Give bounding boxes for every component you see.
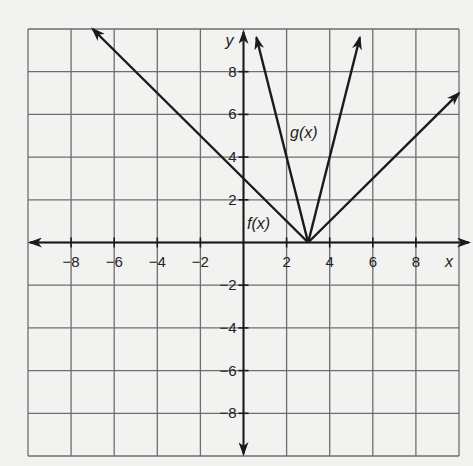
f-label: f(x) [247,215,270,232]
y-tick-label: 8 [228,63,236,80]
x-tick-label: −2 [192,253,209,270]
y-axis-label: y [225,32,235,49]
y-tick-label: 4 [228,148,236,165]
x-tick-label: −6 [106,253,123,270]
y-tick-label: −6 [219,362,236,379]
coordinate-plane: −8−6−4−224688642−2−4−6−8xyf(x)g(x) [0,0,473,466]
x-tick-label: −4 [149,253,166,270]
x-tick-label: 4 [326,253,334,270]
x-tick-label: 8 [412,253,420,270]
x-tick-label: 2 [282,253,290,270]
y-tick-label: −8 [219,404,236,421]
y-tick-label: 6 [228,105,236,122]
x-tick-label: −8 [63,253,80,270]
g-label: g(x) [290,124,318,141]
y-tick-label: −2 [219,276,236,293]
arrow-icon [308,93,459,242]
y-tick-label: −4 [219,319,236,336]
y-tick-label: 2 [228,191,236,208]
x-tick-label: 6 [369,253,377,270]
x-axis-label: x [444,253,454,270]
series-fx [93,29,459,243]
axes: −8−6−4−224688642−2−4−6−8xy [30,32,469,454]
